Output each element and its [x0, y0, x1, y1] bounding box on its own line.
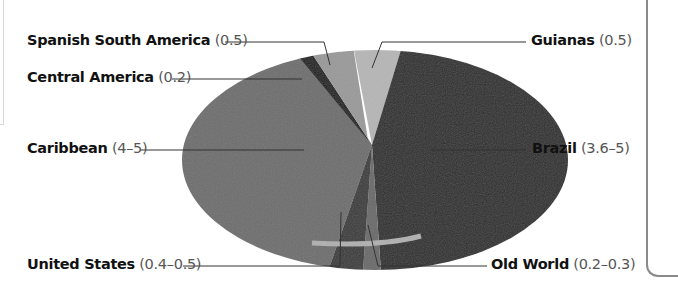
label-central-america: Central America (0.2): [27, 69, 191, 85]
label-caribbean: Caribbean (4–5): [27, 140, 147, 156]
label-brazil: Brazil (3.6–5): [532, 140, 630, 156]
label-old-world: Old World (0.2–0.3): [491, 256, 635, 272]
label-united-states: United States (0.4–0.5): [27, 256, 201, 272]
label-spanish-south-america: Spanish South America (0.5): [27, 32, 248, 48]
label-guianas: Guianas (0.5): [531, 32, 632, 48]
